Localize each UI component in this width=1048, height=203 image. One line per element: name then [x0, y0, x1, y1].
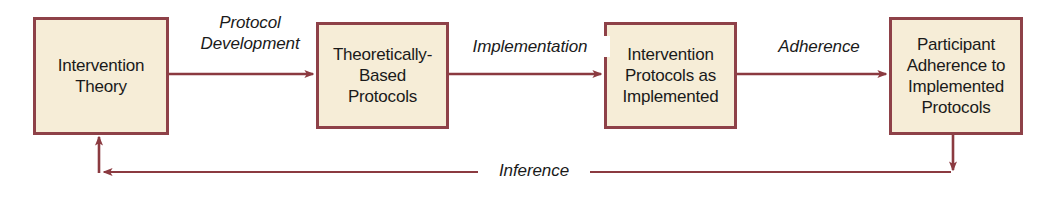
- node-intervention-theory[interactable]: Intervention Theory: [33, 17, 169, 135]
- node-participant-adherence-to-implemented-protocols-label: Participant Adherence to Implemented Pro…: [905, 34, 1008, 118]
- edge-label-adherence: Adherence: [758, 36, 880, 57]
- diagram-canvas: Intervention Theory Theoretically- Based…: [0, 0, 1048, 203]
- edge-label-inference: Inference: [478, 160, 590, 181]
- node-participant-adherence-to-implemented-protocols[interactable]: Participant Adherence to Implemented Pro…: [889, 17, 1023, 135]
- node-theoretically-based-protocols[interactable]: Theoretically- Based Protocols: [316, 22, 449, 129]
- node-intervention-theory-label: Intervention Theory: [56, 55, 146, 97]
- node-intervention-protocols-as-implemented-label: Intervention Protocols as Implemented: [620, 44, 720, 107]
- edge-label-implementation: Implementation: [450, 36, 610, 57]
- node-theoretically-based-protocols-label: Theoretically- Based Protocols: [331, 44, 434, 107]
- edge-label-protocol-development: Protocol Development: [186, 12, 314, 54]
- node-intervention-protocols-as-implemented[interactable]: Intervention Protocols as Implemented: [604, 22, 737, 129]
